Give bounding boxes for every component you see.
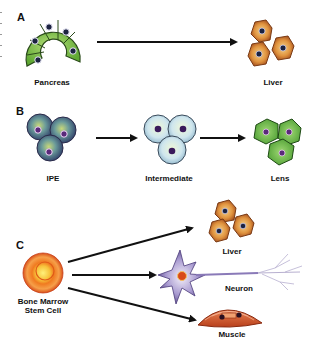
label-liver-c: Liver — [222, 247, 241, 256]
label-stem-line1: Bone Marrow — [18, 297, 69, 306]
label-stem-line2: Stem Cell — [18, 306, 69, 315]
liver-cell-cluster-a — [248, 20, 294, 66]
lens-cell-cluster — [254, 119, 301, 165]
label-intermediate: Intermediate — [145, 174, 193, 183]
ipe-cell-cluster — [27, 114, 76, 161]
panel-letter-a: A — [17, 11, 25, 23]
label-liver-a: Liver — [263, 78, 282, 87]
intermediate-cell-cluster — [144, 115, 196, 164]
muscle-cell — [198, 310, 262, 327]
label-bone-marrow-stem-cell: Bone Marrow Stem Cell — [18, 297, 69, 315]
liver-cell-cluster-c — [209, 200, 254, 242]
label-lens: Lens — [271, 174, 290, 183]
panel-letter-b: B — [16, 105, 24, 117]
bone-marrow-stem-cell — [23, 253, 63, 293]
label-ipe: IPE — [47, 174, 60, 183]
diagram-canvas — [0, 0, 314, 340]
label-muscle: Muscle — [218, 330, 245, 339]
panel-letter-c: C — [16, 239, 24, 251]
label-neuron: Neuron — [225, 284, 253, 293]
label-pancreas: Pancreas — [34, 78, 70, 87]
pancreas-cell-cluster — [26, 20, 80, 66]
arrow-stem-to-liver — [68, 228, 192, 262]
neuron-cell — [158, 250, 302, 304]
